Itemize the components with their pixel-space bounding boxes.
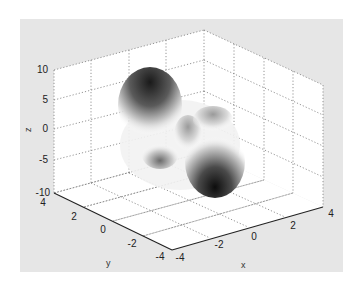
z-axis-label: z [23, 127, 33, 132]
svg-text:2: 2 [290, 220, 296, 231]
figure-panel: 10 5 0 -5 -10 z 4 2 0 -2 -4 y -4 -2 0 2 … [20, 19, 343, 272]
svg-text:-4: -4 [156, 251, 165, 262]
y-axis-label: y [106, 258, 111, 268]
surface-plot: 10 5 0 -5 -10 z 4 2 0 -2 -4 y -4 -2 0 2 … [20, 19, 343, 272]
z-tick: 10 [37, 64, 49, 75]
svg-text:4: 4 [40, 197, 46, 208]
z-tick: 5 [42, 94, 48, 105]
svg-text:-4: -4 [176, 252, 185, 263]
z-tick: -5 [39, 154, 48, 165]
x-axis-label: x [241, 260, 246, 270]
z-axis-ticks: 10 5 0 -5 -10 [36, 64, 51, 198]
svg-text:-2: -2 [128, 238, 137, 249]
svg-text:4: 4 [328, 208, 334, 219]
svg-text:2: 2 [71, 211, 77, 222]
svg-text:0: 0 [251, 231, 257, 242]
svg-text:0: 0 [100, 224, 106, 235]
svg-text:-2: -2 [215, 239, 224, 250]
z-tick: 0 [42, 123, 48, 134]
